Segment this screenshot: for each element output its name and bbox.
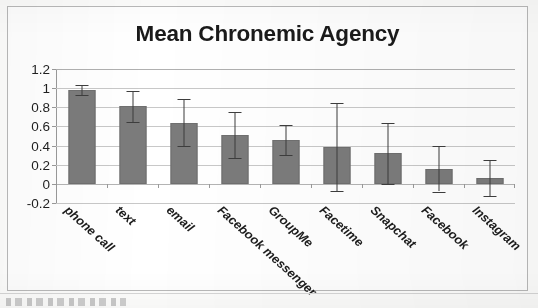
x-tick-mark [107,184,108,188]
x-tick-mark [56,184,57,188]
error-bar-cap-upper [432,146,445,147]
x-axis-label-facebook[interactable]: Facebook [419,203,472,252]
bar-group [413,69,464,203]
error-bar-cap-lower [432,192,445,193]
error-bar-cap-lower [126,122,139,123]
bar-group [107,69,158,203]
y-tick-label: 1 [42,81,50,96]
bar-group [158,69,209,203]
scan-text-fragment [6,298,126,306]
error-bar-cap-lower [381,184,394,185]
bars-layer [56,69,515,203]
error-bar-line [438,146,439,192]
bar-group [56,69,107,203]
error-bar-cap-upper [126,91,139,92]
chart-frame: Mean Chronemic Agency -0.200.20.40.60.81… [7,6,528,291]
x-axis-label-groupme[interactable]: GroupMe [266,203,316,250]
error-bar-line [336,103,337,191]
x-tick-mark [209,184,210,188]
chart-title: Mean Chronemic Agency [8,21,527,47]
x-tick-mark [311,184,312,188]
error-bar-cap-lower [279,155,292,156]
page-edge-divider [0,293,538,294]
x-tick-mark [362,184,363,188]
x-tick-mark [514,184,515,188]
error-bar-line [234,112,235,158]
x-axis-label-email[interactable]: email [164,203,197,235]
error-bar-cap-lower [177,146,190,147]
y-tick-label: 1.2 [31,62,50,77]
x-axis-label-snapchat[interactable]: Snapchat [368,203,419,251]
error-bar-line [387,123,388,184]
error-bar-cap-upper [330,103,343,104]
bar-group [311,69,362,203]
bar-group [209,69,260,203]
error-bar-cap-lower [228,158,241,159]
y-tick-label: 0.6 [31,119,50,134]
error-bar-cap-upper [279,125,292,126]
y-tick-label: 0.4 [31,138,50,153]
scanned-page: Mean Chronemic Agency -0.200.20.40.60.81… [0,0,538,308]
y-tick-label: 0.8 [31,100,50,115]
bar-group [464,69,515,203]
error-bar-cap-upper [483,160,496,161]
x-axis-label-text[interactable]: text [113,203,139,228]
error-bar-cap-upper [75,85,88,86]
x-axis-label-facetime[interactable]: Facetime [317,203,367,250]
bar-group [362,69,413,203]
error-bar-line [183,99,184,146]
x-tick-mark [158,184,159,188]
error-bar-cap-lower [483,196,496,197]
error-bar-line [81,85,82,95]
error-bar-cap-upper [381,123,394,124]
x-axis-category-labels: phone calltextemailFacebook messengerGro… [56,203,515,293]
x-axis-label-facebook-messenger[interactable]: Facebook messenger [215,203,319,299]
x-axis-label-phone-call[interactable]: phone call [62,203,117,255]
x-tick-mark [413,184,414,188]
error-bar-cap-upper [228,112,241,113]
x-tick-mark [464,184,465,188]
bar[interactable] [68,90,95,184]
y-tick-label: -0.2 [27,196,50,211]
plot-area: -0.200.20.40.60.811.2 [56,69,515,203]
error-bar-cap-lower [75,95,88,96]
error-bar-line [285,125,286,156]
y-tick-label: 0 [42,176,50,191]
error-bar-line [489,160,490,196]
error-bar-line [132,91,133,122]
bar-group [260,69,311,203]
error-bar-cap-upper [177,99,190,100]
x-tick-mark [260,184,261,188]
x-axis-label-instagram[interactable]: Instagram [470,203,524,253]
y-tick-label: 0.2 [31,157,50,172]
error-bar-cap-lower [330,191,343,192]
